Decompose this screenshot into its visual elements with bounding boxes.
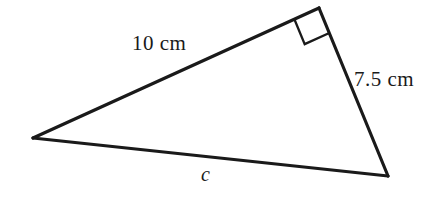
triangle-figure: 10 cm 7.5 cm c [0,0,443,208]
side-label-leg-a: 10 cm [132,33,186,54]
triangle-side-leg-a [33,8,319,138]
triangle-svg [0,0,443,208]
triangle-side-hypotenuse [33,138,388,176]
side-label-leg-b: 7.5 cm [354,69,414,90]
side-label-hypotenuse: c [201,164,210,184]
